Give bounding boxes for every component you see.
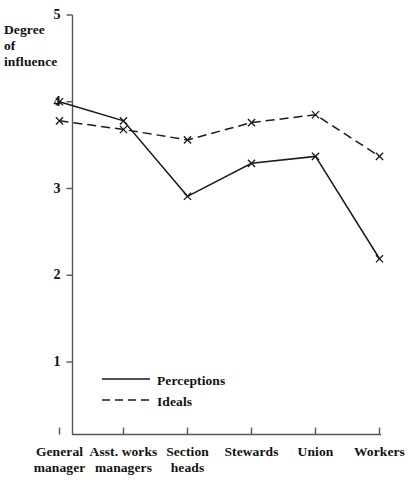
y-axis-tick-label: 4 [45,95,61,109]
y-axis-tick-label: 1 [45,355,61,369]
y-axis-tick-label: 2 [45,268,61,282]
legend-swatches [102,379,150,400]
chart-plot-area [0,0,408,482]
data-series-group [56,98,383,262]
y-axis-tick-label: 5 [45,8,61,22]
data-point-marker [184,193,191,200]
y-axis-tick-label: 3 [45,182,61,196]
data-point-marker [376,255,383,262]
x-axis-tick-label: Workers [338,444,408,460]
x-axis-ticks [60,428,380,435]
line-chart: Degree of influence 12345 General manage… [0,0,408,482]
data-point-marker [376,153,383,160]
series-line-ideals [60,115,380,157]
legend-label-ideals: Ideals [157,394,192,409]
legend-label-perceptions: Perceptions [157,373,225,388]
series-line-perceptions [60,102,380,259]
axes [73,15,382,435]
y-axis-ticks [67,15,73,362]
